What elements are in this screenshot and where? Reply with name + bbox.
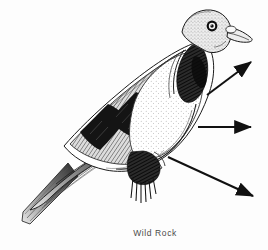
wild-rock-pigeon-illustration: [0, 0, 268, 250]
beak-cere: [226, 26, 236, 33]
figure-container: Wild Rock: [0, 0, 268, 250]
figure-caption: Wild Rock: [0, 228, 268, 238]
bird-eye: [207, 21, 218, 32]
